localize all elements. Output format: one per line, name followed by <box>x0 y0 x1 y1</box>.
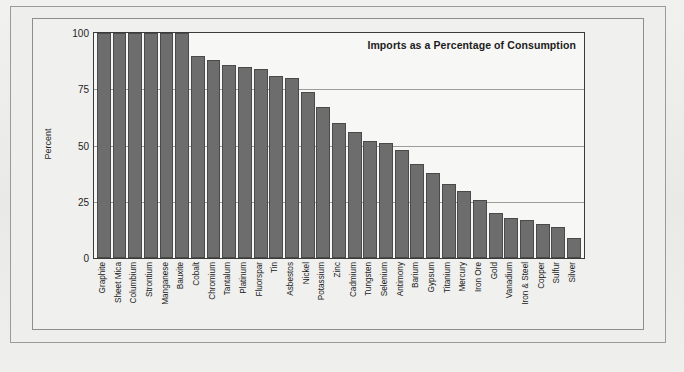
x-axis-tick-label: Selenium <box>381 262 389 296</box>
bar <box>285 78 299 258</box>
x-axis-label-slot: Barium <box>409 260 423 330</box>
y-axis-tick-label: 50 <box>78 140 89 151</box>
x-axis-label-slot: Tantalum <box>221 260 235 330</box>
x-axis-label-slot: Sulfur <box>550 260 564 330</box>
bar <box>551 227 565 259</box>
bar <box>175 33 189 258</box>
bar-series <box>94 33 584 258</box>
bar <box>473 200 487 259</box>
x-axis-tick-label: Tin <box>271 262 279 273</box>
x-axis-label-slot: Silver <box>566 260 580 330</box>
x-axis-label-slot: Mercury <box>456 260 470 330</box>
chart-title: Imports as a Percentage of Consumption <box>367 39 576 51</box>
x-axis-label-slot: Asbestos <box>284 260 298 330</box>
x-axis-label-slot: Zinc <box>331 260 345 330</box>
x-axis-tick-label: Antimony <box>396 262 404 296</box>
x-axis-tick-label: Titanium <box>444 262 452 293</box>
x-axis-tick-label: Cobalt <box>193 262 201 286</box>
bar <box>504 218 518 259</box>
y-axis-tick-label: 25 <box>78 196 89 207</box>
bar <box>301 92 315 259</box>
bar <box>489 213 503 258</box>
x-axis-tick-label: Gypsum <box>428 262 436 292</box>
bar <box>113 33 127 258</box>
x-axis-tick-label: Chromium <box>208 262 216 300</box>
bar <box>144 33 158 258</box>
bar <box>442 184 456 258</box>
x-axis-tick-label: Fluorspar <box>255 262 263 297</box>
bar <box>410 164 424 259</box>
x-axis-label-slot: Manganese <box>159 260 173 330</box>
x-axis-label-slot: Tungsten <box>362 260 376 330</box>
y-axis-tick-label: 75 <box>78 84 89 95</box>
x-axis-tick-label: Bauxite <box>177 262 185 289</box>
bar <box>128 33 142 258</box>
x-axis-tick-label: Iron Ore <box>475 262 483 292</box>
x-axis-tick-label: Barium <box>412 262 420 288</box>
x-axis-label-slot: Titanium <box>441 260 455 330</box>
x-axis-label-slot: Copper <box>535 260 549 330</box>
bar <box>191 56 205 259</box>
x-axis-tick-label: Strontium <box>146 262 154 297</box>
x-axis-tick-label: Graphite <box>99 262 107 293</box>
x-axis-labels: GraphiteSheet MicaColumbiumStrontiumMang… <box>93 260 583 330</box>
x-axis-tick-label: Iron & Steel <box>522 262 530 305</box>
x-axis-label-slot: Sheet Mica <box>112 260 126 330</box>
x-axis-tick-label: Vanadium <box>506 262 514 298</box>
bar <box>363 141 377 258</box>
x-axis-label-slot: Tin <box>268 260 282 330</box>
x-axis-tick-label: Sulfur <box>553 262 561 283</box>
x-axis-tick-label: Mercury <box>459 262 467 292</box>
x-axis-label-slot: Cobalt <box>190 260 204 330</box>
bar <box>520 220 534 258</box>
x-axis-tick-label: Nickel <box>302 262 310 284</box>
chart-page: Percent 0255075100 Imports as a Percenta… <box>0 0 684 372</box>
x-axis-label-slot: Selenium <box>378 260 392 330</box>
bar <box>97 33 111 258</box>
x-axis-tick-label: Tungsten <box>365 262 373 296</box>
x-axis-label-slot: Strontium <box>143 260 157 330</box>
x-axis-tick-label: Cadmium <box>349 262 357 297</box>
x-axis-tick-label: Copper <box>538 262 546 289</box>
x-axis-label-slot: Chromium <box>206 260 220 330</box>
x-axis-label-slot: Bauxite <box>174 260 188 330</box>
x-axis-label-slot: Cadmium <box>347 260 361 330</box>
x-axis-tick-label: Columbium <box>130 262 138 303</box>
x-axis-label-slot: Platinum <box>237 260 251 330</box>
x-axis-label-slot: Gold <box>488 260 502 330</box>
x-axis-label-slot: Potassium <box>315 260 329 330</box>
bar <box>160 33 174 258</box>
bar <box>567 238 581 258</box>
bar <box>316 107 330 258</box>
x-axis-label-slot: Columbium <box>127 260 141 330</box>
bar <box>395 150 409 258</box>
bar <box>332 123 346 258</box>
bar <box>536 224 550 258</box>
bar <box>254 69 268 258</box>
y-axis-tick-label: 100 <box>72 28 89 39</box>
bar <box>238 67 252 258</box>
bar <box>269 76 283 258</box>
bar <box>457 191 471 259</box>
bar <box>222 65 236 259</box>
x-axis-tick-label: Manganese <box>161 262 169 305</box>
bar <box>426 173 440 259</box>
bar <box>379 143 393 258</box>
x-axis-tick-label: Zinc <box>334 262 342 277</box>
x-axis-label-slot: Graphite <box>96 260 110 330</box>
plot-area: 0255075100 Imports as a Percentage of Co… <box>93 32 585 259</box>
x-axis-tick-label: Sheet Mica <box>114 262 122 303</box>
bar <box>207 60 221 258</box>
x-axis-tick-label: Tantalum <box>224 262 232 295</box>
x-axis-label-slot: Antimony <box>394 260 408 330</box>
bar <box>348 132 362 258</box>
x-axis-tick-label: Platinum <box>240 262 248 294</box>
x-axis-tick-label: Potassium <box>318 262 326 300</box>
x-axis-label-slot: Iron & Steel <box>519 260 533 330</box>
y-axis-tick-label: 0 <box>83 253 89 264</box>
x-axis-label-slot: Fluorspar <box>253 260 267 330</box>
x-axis-tick-label: Asbestos <box>287 262 295 296</box>
y-axis-label: Percent <box>43 128 53 159</box>
x-axis-label-slot: Nickel <box>300 260 314 330</box>
x-axis-tick-label: Gold <box>491 262 499 279</box>
